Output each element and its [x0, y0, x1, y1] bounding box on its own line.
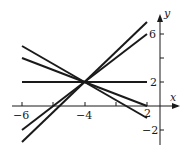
y-tick-label-6: 6	[149, 28, 156, 41]
x-axis-label: x	[170, 91, 177, 104]
x-tick-label-neg6: −6	[13, 109, 29, 122]
lines	[22, 22, 147, 142]
y-ticks	[160, 34, 164, 130]
chart: x y −6 −4 2 6 2 −2	[0, 0, 187, 150]
y-axis-arrow-icon	[157, 14, 163, 22]
x-ticks	[22, 102, 147, 106]
x-tick-label-2: 2	[144, 107, 151, 120]
x-tick-label-neg4: −4	[76, 109, 92, 122]
y-axis-label: y	[163, 7, 171, 20]
y-tick-label-2: 2	[150, 76, 157, 89]
y-tick-label-neg2: −2	[142, 124, 158, 137]
